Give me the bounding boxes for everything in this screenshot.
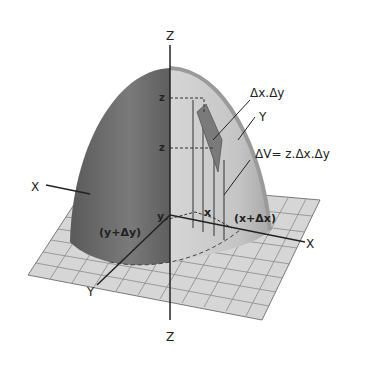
y-point-label: y <box>157 210 164 223</box>
axis-label-y-upper: Y <box>258 110 267 124</box>
z-upper-label: z <box>159 92 165 103</box>
paraboloid-diagram: Z Z X X Y Y Δx.Δy ΔV= z.Δx.Δy z z x (x+Δ… <box>0 0 371 367</box>
x-plus-dx-label: (x+Δx) <box>234 212 276 225</box>
axis-label-z-top: Z <box>166 29 174 43</box>
axis-label-z-bottom: Z <box>166 330 174 344</box>
x-point-label: x <box>204 206 211 219</box>
axis-label-x-left: X <box>31 180 39 194</box>
axis-label-y-lower: Y <box>86 285 95 299</box>
axis-label-x-right: X <box>306 237 314 251</box>
volume-element-label: ΔV= z.Δx.Δy <box>255 147 330 161</box>
area-element-label: Δx.Δy <box>250 86 284 100</box>
y-plus-dy-label: (y+Δy) <box>99 226 141 239</box>
z-lower-label: z <box>159 142 165 153</box>
